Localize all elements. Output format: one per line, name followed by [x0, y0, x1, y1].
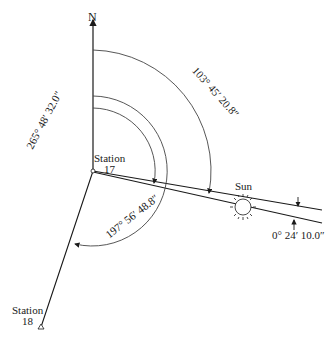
sun-label: Sun [235, 181, 252, 192]
station18-label: Station 18 [12, 305, 43, 327]
survey-diagram: N Station 17 Station 18 Sun 103° 45′ 20.… [0, 0, 332, 344]
sun-line-upper [93, 171, 322, 210]
angle-sun-semidiameter: 0° 24′ 10.0″ [272, 230, 325, 241]
arc-angle-left [37, 122, 93, 218]
diagram-canvas [0, 0, 332, 344]
station18-line [41, 171, 93, 327]
station17-label: Station 17 [94, 153, 125, 175]
north-label: N [88, 12, 97, 23]
